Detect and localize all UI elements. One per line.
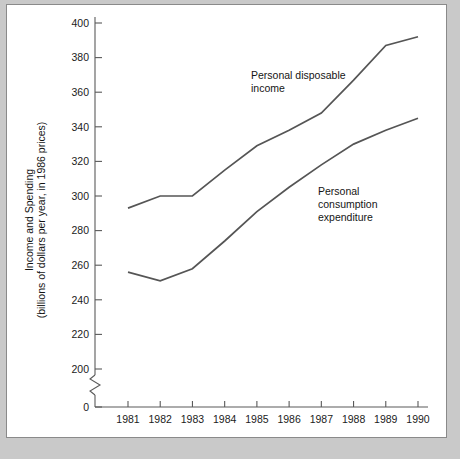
y-axis-break-icon	[90, 375, 100, 395]
y-tick-label-280: 280	[71, 224, 89, 236]
annotation-consumption-expenditure-line2: consumption	[318, 198, 378, 210]
x-tick-label-1984: 1984	[213, 413, 237, 425]
x-tick-label-1985: 1985	[245, 413, 269, 425]
y-tick-label-380: 380	[71, 51, 89, 63]
x-tick-label-1986: 1986	[277, 413, 301, 425]
x-tick-label-1990: 1990	[406, 413, 430, 425]
annotation-disposable-income-line1: Personal disposable	[251, 69, 346, 81]
annotation-consumption-expenditure-line1: Personal	[318, 185, 359, 197]
x-tick-label-1989: 1989	[374, 413, 398, 425]
y-tick-label-240: 240	[71, 294, 89, 306]
y-tick-label-200: 200	[71, 363, 89, 375]
x-tick-label-1988: 1988	[342, 413, 366, 425]
x-axis-ticks: 1981198219831984198519861987198819891990	[116, 401, 430, 425]
annotation-consumption-expenditure-line3: expenditure	[318, 211, 373, 223]
y-tick-label-220: 220	[71, 328, 89, 340]
y-axis-ticks: 0200220240260280300320340360380400	[71, 17, 102, 413]
x-tick-label-1983: 1983	[181, 413, 205, 425]
line-chart: Income and Spending (billions of dollars…	[7, 5, 448, 439]
x-tick-label-1987: 1987	[310, 413, 334, 425]
y-tick-label-360: 360	[71, 86, 89, 98]
annotations-group: Personal disposableincomePersonalconsump…	[251, 69, 378, 223]
x-tick-label-1982: 1982	[149, 413, 173, 425]
y-tick-label-320: 320	[71, 155, 89, 167]
y-tick-label-300: 300	[71, 190, 89, 202]
screenshot-root: Income and Spending (billions of dollars…	[0, 0, 460, 459]
y-tick-label-340: 340	[71, 121, 89, 133]
y-axis-title-line1: Income and Spending	[23, 169, 35, 271]
y-axis-title-line2: (billions of dollars per year, in 1986 p…	[35, 122, 47, 319]
y-tick-label-400: 400	[71, 17, 89, 29]
y-tick-label-260: 260	[71, 259, 89, 271]
y-axis	[90, 17, 100, 407]
chart-frame: Income and Spending (billions of dollars…	[6, 4, 447, 438]
y-tick-label-0: 0	[83, 401, 89, 413]
x-tick-label-1981: 1981	[116, 413, 140, 425]
annotation-disposable-income-line2: income	[251, 82, 285, 94]
series-line-disposable-income	[128, 37, 418, 208]
